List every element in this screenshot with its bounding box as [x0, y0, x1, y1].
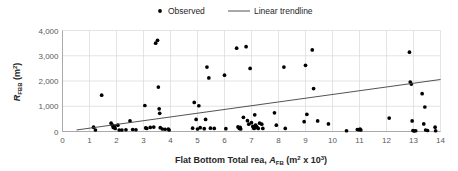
data-point: [113, 127, 117, 131]
data-point: [414, 129, 418, 133]
data-point: [223, 73, 227, 77]
x-axis-title: Flat Bottom Total rea, AFB (m2 x 103): [175, 155, 327, 166]
data-point: [426, 129, 430, 133]
data-point: [256, 127, 260, 131]
data-point: [242, 116, 246, 120]
data-point: [420, 92, 424, 96]
legend-label-observed: Observed: [168, 6, 205, 16]
data-point: [158, 111, 162, 115]
data-point: [248, 67, 252, 71]
y-tick-label: 4,000: [38, 27, 59, 36]
x-tick-label: 10: [328, 136, 337, 145]
data-point: [359, 128, 363, 132]
data-point: [327, 122, 331, 126]
data-point: [191, 126, 195, 130]
x-axis-symbol: A: [268, 155, 276, 165]
data-point: [283, 127, 287, 131]
data-point: [100, 93, 104, 97]
data-point: [148, 126, 152, 130]
y-axis-units-post: ): [12, 63, 22, 66]
chart-gridlines: [63, 31, 441, 132]
data-point: [224, 127, 228, 131]
data-point: [156, 38, 160, 42]
svg-text:RFBB (m2): RFBB (m2): [12, 63, 23, 102]
data-point: [250, 121, 254, 125]
data-point: [261, 127, 265, 131]
x-tick-label: 1: [87, 136, 92, 145]
y-axis-title: RFBB (m2): [12, 63, 23, 102]
data-point: [202, 127, 206, 131]
x-tick-label: 3: [141, 136, 146, 145]
data-point: [205, 65, 209, 69]
data-point: [422, 122, 426, 126]
data-point: [253, 113, 257, 117]
data-point: [152, 125, 156, 129]
data-point: [167, 128, 171, 132]
y-axis-tick-labels: 01,0002,0003,0004,000: [38, 27, 59, 137]
data-point: [260, 122, 264, 126]
x-tick-label: 11: [355, 136, 364, 145]
data-point: [304, 63, 308, 67]
data-point: [316, 119, 320, 123]
data-point: [209, 126, 213, 130]
x-tick-label: 13: [409, 136, 418, 145]
data-point: [310, 48, 314, 52]
y-tick-label: 0: [54, 128, 59, 137]
legend-label-trendline: Linear trendline: [254, 6, 313, 16]
data-point: [124, 128, 128, 132]
data-point: [94, 128, 98, 132]
x-tick-label: 8: [276, 136, 281, 145]
data-point: [198, 126, 202, 130]
data-point: [192, 101, 196, 105]
chart-canvas: Observed Linear trendline 01,0002,0003,0…: [0, 0, 458, 171]
x-axis-units-post: ): [324, 155, 327, 165]
scatter-chart: Observed Linear trendline 01,0002,0003,0…: [0, 0, 458, 171]
svg-text:Flat Bottom Total rea, AFB (m: Flat Bottom Total rea, AFB (m2 x 103): [175, 155, 327, 166]
x-tick-label: 0: [60, 136, 65, 145]
y-tick-label: 2,000: [38, 77, 59, 86]
x-tick-label: 9: [303, 136, 308, 145]
data-point: [434, 129, 438, 133]
chart-legend: Observed Linear trendline: [158, 6, 313, 16]
x-axis-units-mid: x 10: [301, 155, 321, 165]
data-point: [302, 120, 306, 124]
x-tick-label: 2: [114, 136, 119, 145]
data-point: [282, 65, 286, 69]
x-axis-tick-labels: 01234567891011121314: [60, 136, 445, 145]
data-point: [212, 127, 216, 131]
x-axis-units-pre: (m: [284, 155, 298, 165]
data-point: [312, 87, 316, 91]
x-tick-label: 7: [249, 136, 254, 145]
x-tick-label: 14: [436, 136, 445, 145]
data-point: [387, 116, 391, 120]
data-point: [163, 127, 167, 131]
data-point: [345, 129, 349, 133]
legend-marker-observed: [158, 9, 162, 13]
y-tick-label: 1,000: [38, 102, 59, 111]
data-point: [204, 118, 208, 122]
x-tick-label: 5: [195, 136, 200, 145]
data-point: [134, 128, 138, 132]
x-axis-lead: Flat Bottom Total rea,: [175, 155, 269, 165]
data-point: [433, 125, 437, 129]
data-point: [194, 118, 198, 122]
data-point: [120, 128, 124, 132]
data-point: [143, 104, 147, 108]
data-point: [207, 76, 211, 80]
y-tick-label: 3,000: [38, 52, 59, 61]
data-point: [244, 45, 248, 49]
data-point: [197, 104, 201, 108]
data-point: [239, 127, 243, 131]
data-point: [408, 50, 412, 54]
data-point: [235, 46, 239, 50]
data-point: [423, 105, 427, 109]
x-tick-label: 12: [382, 136, 391, 145]
x-tick-label: 4: [168, 136, 173, 145]
data-point: [305, 112, 309, 116]
data-point: [273, 111, 277, 115]
data-point: [410, 119, 414, 123]
x-tick-label: 6: [222, 136, 227, 145]
data-point: [145, 127, 149, 131]
data-point: [131, 128, 135, 132]
data-point: [274, 123, 278, 127]
